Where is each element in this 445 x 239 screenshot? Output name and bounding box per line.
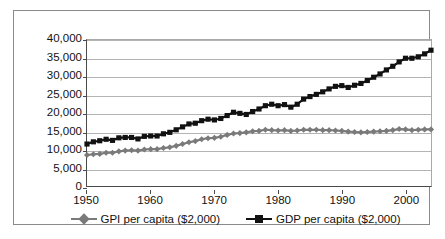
square-marker [186, 121, 191, 126]
square-marker [428, 48, 433, 53]
series-gpi [84, 126, 434, 158]
square-marker [339, 83, 344, 88]
diamond-marker [237, 130, 243, 136]
x-axis-tick-label: 1970 [201, 194, 227, 206]
square-marker [205, 117, 210, 122]
y-axis-tick [83, 77, 87, 78]
diamond-marker [256, 128, 262, 134]
square-marker [142, 134, 147, 139]
diamond-marker [90, 151, 96, 157]
y-axis-tick-label: 20,000 [47, 107, 82, 118]
diamond-marker [415, 127, 421, 133]
chart-legend: GPI per capita ($2,000) GDP per capita (… [27, 209, 444, 229]
diamond-marker [205, 135, 211, 141]
diamond-marker [218, 134, 224, 140]
y-axis-tick [83, 188, 87, 189]
square-marker [250, 109, 255, 114]
square-marker [212, 117, 217, 122]
diamond-marker [358, 129, 364, 135]
diamond-marker [396, 126, 402, 132]
square-marker [397, 59, 402, 64]
y-axis-tick-label: 5,000 [53, 163, 82, 174]
diamond-marker [320, 127, 326, 133]
diamond-marker [243, 129, 249, 135]
y-axis-tick-label: 40,000 [47, 33, 82, 44]
diamond-marker [383, 128, 389, 134]
diamond-marker [281, 127, 287, 133]
square-marker [422, 51, 427, 56]
diamond-marker [288, 128, 294, 134]
diamond-marker [186, 139, 192, 145]
y-axis-tick [83, 170, 87, 171]
figure-border: 05,00010,00015,00020,00025,00030,00035,0… [13, 10, 430, 225]
y-axis-tick [83, 151, 87, 152]
square-marker [167, 130, 172, 135]
diamond-marker [422, 126, 428, 132]
square-marker [384, 67, 389, 72]
diamond-marker [167, 144, 173, 150]
diamond-marker [307, 127, 313, 133]
square-marker [282, 102, 287, 107]
square-marker [371, 75, 376, 80]
square-marker [225, 113, 230, 118]
square-marker [116, 135, 121, 140]
square-marker [148, 133, 153, 138]
legend-item-gpi[interactable]: GPI per capita ($2,000) [71, 213, 221, 225]
diamond-marker [135, 148, 141, 154]
square-marker [110, 138, 115, 143]
square-marker [174, 127, 179, 132]
square-marker [314, 92, 319, 97]
y-axis-tick [83, 59, 87, 60]
diamond-marker [326, 127, 332, 133]
square-marker [180, 124, 185, 129]
diamond-marker [269, 127, 275, 133]
diamond-marker [97, 151, 103, 157]
diamond-marker [192, 138, 198, 144]
diamond-marker [301, 127, 307, 133]
diamond-marker [230, 130, 236, 136]
diamond-marker [148, 146, 154, 152]
square-marker [161, 131, 166, 136]
diamond-marker [371, 129, 377, 135]
diamond-marker [129, 147, 135, 153]
x-axis-tick-label: 1980 [265, 194, 291, 206]
square-marker [307, 94, 312, 99]
square-marker [237, 111, 242, 116]
square-marker [193, 121, 198, 126]
chart-figure: 05,00010,00015,00020,00025,00030,00035,0… [0, 0, 445, 239]
diamond-marker [109, 150, 115, 156]
square-marker [231, 110, 236, 115]
y-axis-tick-label: 10,000 [47, 144, 82, 155]
diamond-marker [160, 145, 166, 151]
plot-area [86, 39, 432, 187]
diamond-marker [339, 128, 345, 134]
square-marker [123, 135, 128, 140]
diamond-marker [84, 152, 90, 158]
diamond-marker [377, 128, 383, 134]
diamond-marker [262, 127, 268, 133]
y-axis-tick [83, 114, 87, 115]
diamond-marker [332, 127, 338, 133]
diamond-marker [294, 127, 300, 133]
square-marker [244, 112, 249, 117]
y-axis-tick-label: 30,000 [47, 70, 82, 81]
diamond-marker [173, 143, 179, 149]
diamond-marker [116, 148, 122, 154]
diamond-marker [103, 150, 109, 156]
square-marker [377, 71, 382, 76]
y-axis-tick-label: 0 [76, 181, 82, 192]
square-marker [390, 64, 395, 69]
square-marker [91, 139, 96, 144]
square-marker [365, 78, 370, 83]
square-marker [288, 105, 293, 110]
diamond-marker [390, 127, 396, 133]
square-marker [135, 136, 140, 141]
diamond-marker [179, 141, 185, 147]
square-marker [97, 138, 102, 143]
diamond-marker [154, 146, 160, 152]
legend-item-gdp[interactable]: GDP per capita ($2,000) [246, 213, 400, 225]
square-marker [358, 81, 363, 86]
x-axis-tick-label: 1950 [73, 194, 99, 206]
x-axis-tick-label: 1990 [329, 194, 355, 206]
diamond-marker [275, 127, 281, 133]
